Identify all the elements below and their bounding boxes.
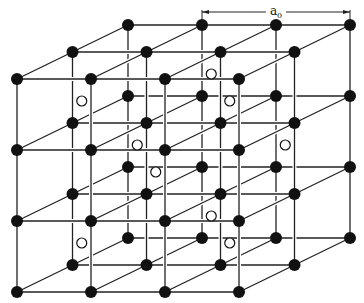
lattice-atom [289, 188, 301, 200]
lattice-atom [215, 188, 227, 200]
depth-bond [295, 238, 351, 265]
lattice-atoms [11, 19, 356, 298]
lattice-constant-dimension: a0 [202, 4, 350, 20]
depth-bond [91, 194, 147, 221]
lattice-constant-label: a0 [270, 4, 282, 20]
lattice-atom [215, 259, 227, 271]
interstitial-site [206, 69, 216, 79]
lattice-atom [344, 19, 356, 31]
interstitial-site [225, 96, 235, 106]
depth-bond [17, 194, 73, 221]
lattice-atom [344, 232, 356, 244]
lattice-atom [215, 46, 227, 58]
lattice-atom [141, 188, 153, 200]
lattice-atom [233, 215, 245, 227]
depth-bond [73, 167, 129, 194]
lattice-atom [85, 73, 97, 85]
lattice-atom [270, 19, 282, 31]
depth-bond [17, 265, 73, 292]
interstitial-site [151, 167, 161, 177]
depth-bond [91, 52, 147, 79]
lattice-atom [344, 90, 356, 102]
lattice-atom [11, 73, 23, 85]
interstitial-site [77, 238, 87, 248]
depth-bond [17, 52, 73, 79]
depth-bond [147, 238, 203, 265]
lattice-atom [122, 19, 134, 31]
arrowhead-right-icon [343, 10, 350, 14]
lattice-atom [270, 161, 282, 173]
lattice-atom [159, 73, 171, 85]
lattice-atom [67, 259, 79, 271]
lattice-atom [159, 215, 171, 227]
interstitial-site [77, 96, 87, 106]
depth-bond [147, 96, 203, 123]
arrowhead-left-icon [202, 10, 209, 14]
depth-bond [165, 265, 221, 292]
lattice-atom [67, 117, 79, 129]
depth-bond [147, 25, 203, 52]
depth-bond [221, 25, 277, 52]
lattice-atom [67, 46, 79, 58]
lattice-atom [122, 161, 134, 173]
lattice-atom [196, 90, 208, 102]
depth-bond [165, 123, 221, 150]
lattice-atom [67, 188, 79, 200]
crystal-lattice-diagram: a0 [0, 0, 364, 303]
lattice-atom [289, 46, 301, 58]
lattice-bonds [17, 25, 350, 292]
depth-bond [239, 52, 295, 79]
interstitial-site [225, 238, 235, 248]
depth-bond [295, 96, 351, 123]
lattice-atom [270, 90, 282, 102]
lattice-atom [141, 117, 153, 129]
interstitial-site [206, 211, 216, 221]
lattice-atom [141, 259, 153, 271]
lattice-atom [159, 144, 171, 156]
depth-bond [91, 265, 147, 292]
interstitial-site [280, 140, 290, 150]
lattice-atom [215, 117, 227, 129]
lattice-atom [141, 46, 153, 58]
lattice-atom [85, 144, 97, 156]
lattice-atom [11, 215, 23, 227]
lattice-atom [11, 144, 23, 156]
lattice-atom [344, 161, 356, 173]
lattice-atom [85, 286, 97, 298]
depth-bond [221, 167, 277, 194]
lattice-atom [196, 232, 208, 244]
lattice-atom [289, 117, 301, 129]
depth-bond [239, 194, 295, 221]
lattice-atom [196, 19, 208, 31]
depth-bond [17, 123, 73, 150]
lattice-atom [289, 259, 301, 271]
depth-bond [295, 167, 351, 194]
lattice-atom [196, 161, 208, 173]
lattice-atom [85, 215, 97, 227]
lattice-atom [11, 286, 23, 298]
lattice-atom [122, 232, 134, 244]
depth-bond [295, 25, 351, 52]
lattice-atom [159, 286, 171, 298]
lattice-atom [233, 73, 245, 85]
depth-bond [239, 265, 295, 292]
depth-bond [73, 25, 129, 52]
lattice-atom [233, 144, 245, 156]
interstitial-site [132, 140, 142, 150]
lattice-atom [270, 232, 282, 244]
lattice-atom [233, 286, 245, 298]
lattice-atom [122, 90, 134, 102]
